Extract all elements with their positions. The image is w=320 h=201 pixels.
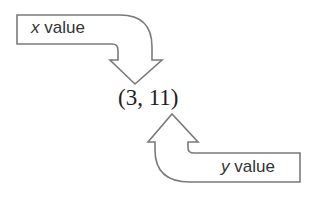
x-variable: x	[31, 18, 40, 37]
y-value-text: value	[230, 157, 275, 176]
coordinate-point: (3, 11)	[118, 85, 178, 111]
x-value-text: value	[40, 18, 85, 37]
x-value-label: x value	[31, 18, 85, 38]
y-variable: y	[221, 157, 230, 176]
y-value-label: y value	[221, 157, 275, 177]
